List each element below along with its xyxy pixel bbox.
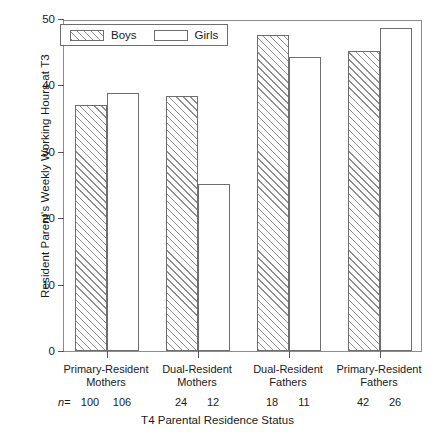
plot-area: 01020304050 (63, 20, 422, 352)
bar-girls-group-3 (289, 57, 321, 351)
x-tick-mark (289, 351, 290, 358)
bar-girls-group-4 (380, 28, 412, 351)
bar-girls-group-1 (107, 93, 139, 351)
bar-boys-group-2 (166, 96, 198, 351)
y-tick-mark (58, 351, 64, 352)
bar-girls-group-2 (198, 184, 230, 351)
y-axis-title: Resident Parent's Weekly Working Hours a… (39, 0, 51, 356)
y-tick-label: 0 (49, 345, 55, 357)
sample-size-girls-group-4: 26 (375, 396, 415, 408)
x-tick-mark (380, 351, 381, 358)
bar-boys-group-3 (257, 35, 289, 351)
x-tick-mark (107, 351, 108, 358)
y-tick-mark (58, 218, 64, 219)
x-group-label-line1: Primary-Resident (64, 363, 149, 375)
x-group-label-line1: Primary-Resident (337, 363, 422, 375)
legend-label-boys: Boys (111, 29, 137, 41)
sample-size-girls-group-3: 11 (284, 396, 324, 408)
chart-legend: Boys Girls (60, 24, 228, 46)
plot-inner: 01020304050 (64, 21, 421, 351)
y-tick-label: 30 (42, 146, 55, 158)
y-tick-mark (58, 19, 64, 20)
bar-chart-figure: Resident Parent's Weekly Working Hours a… (0, 0, 435, 439)
x-group-label-4: Primary-ResidentFathers (324, 363, 434, 389)
legend-swatch-girls-icon (154, 30, 188, 41)
sample-size-prefix: n= (58, 396, 71, 408)
y-tick-mark (58, 285, 64, 286)
x-group-label-line1: Dual-Resident (253, 363, 323, 375)
x-tick-mark (198, 351, 199, 358)
bar-boys-group-4 (348, 51, 380, 351)
bar-boys-group-1 (75, 105, 107, 351)
y-tick-label: 20 (42, 212, 55, 224)
y-tick-mark (58, 152, 64, 153)
x-axis-title: T4 Parental Residence Status (0, 414, 435, 426)
x-group-label-line1: Dual-Resident (162, 363, 232, 375)
sample-size-girls-group-2: 12 (193, 396, 233, 408)
y-tick-label: 40 (42, 79, 55, 91)
y-tick-mark (58, 85, 64, 86)
sample-size-girls-group-1: 106 (102, 396, 142, 408)
legend-label-girls: Girls (195, 29, 219, 41)
x-group-label-line2: Fathers (324, 376, 434, 389)
legend-swatch-boys-icon (70, 30, 104, 41)
y-tick-label: 50 (42, 13, 55, 25)
y-tick-label: 10 (42, 279, 55, 291)
